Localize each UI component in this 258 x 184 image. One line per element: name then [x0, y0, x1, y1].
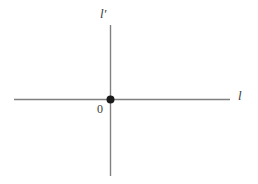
vertical-axis-label: l′ [100, 7, 106, 20]
origin-label: 0 [97, 103, 103, 115]
horizontal-axis-label: l [238, 89, 242, 102]
axes-drawing [0, 0, 258, 184]
origin-point-dot [107, 96, 115, 104]
figure-canvas: l′ l 0 [0, 0, 258, 184]
